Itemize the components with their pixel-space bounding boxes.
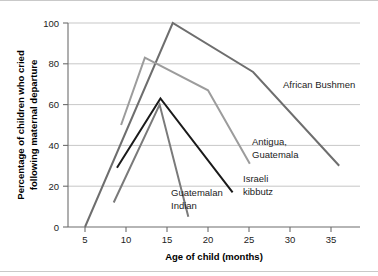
y-tick-label-80: 80 [48,58,59,69]
series-label-african-bushmen: African Bushmen [283,79,355,90]
x-tick-labels: 5 10 15 20 25 30 35 [82,234,336,245]
x-tick-label-15: 15 [162,234,173,245]
y-tick-label-40: 40 [48,140,59,151]
y-tick-labels: 100 80 60 40 20 0 [43,18,59,233]
line-chart: 100 80 60 40 20 0 5 10 15 20 25 30 35 [0,0,378,276]
x-tick-label-30: 30 [285,234,296,245]
y-axis-title-line1: Percentage of children who cried [15,50,26,200]
series-label-israeli-line2: kibbutz [243,186,273,197]
x-tick-label-10: 10 [121,234,132,245]
y-tick-label-20: 20 [48,181,59,192]
series-label-israeli-line1: Israeli [243,173,268,184]
series-label-antigua-line1: Antigua, [252,136,287,147]
y-tick-label-100: 100 [43,18,59,29]
y-ticks [63,23,68,227]
y-axis-title-line2: following maternal departure [28,60,39,190]
y-tick-label-60: 60 [48,99,59,110]
chart-container: 100 80 60 40 20 0 5 10 15 20 25 30 35 [0,0,378,276]
series-label-antigua-line2: Guatemala [252,149,299,160]
x-axis-title: Age of child (months) [165,251,263,262]
x-tick-label-20: 20 [203,234,214,245]
y-tick-label-0: 0 [54,222,59,233]
x-tick-label-25: 25 [244,234,255,245]
x-tick-label-35: 35 [326,234,337,245]
x-tick-label-5: 5 [82,234,87,245]
series-label-guatemalan-line1: Guatemalan [171,187,223,198]
x-ticks [85,227,331,232]
series-label-guatemalan-line2: Indian [171,200,197,211]
